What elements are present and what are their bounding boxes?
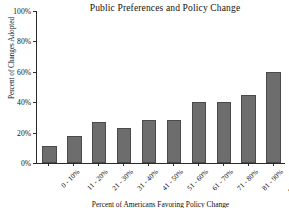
x-tick-mark <box>123 163 124 166</box>
y-axis-title: Percent of Changes Adopted <box>8 0 16 128</box>
x-tick-mark <box>198 163 199 166</box>
y-tick-mark <box>33 133 36 134</box>
x-tick-mark <box>48 163 49 166</box>
y-tick-label: 60% <box>17 67 31 76</box>
y-tick-mark <box>33 11 36 12</box>
y-tick-mark <box>33 163 36 164</box>
bar <box>67 136 81 163</box>
x-tick-mark <box>223 163 224 166</box>
x-tick-mark <box>148 163 149 166</box>
x-tick-label: 91 - 100% <box>286 168 289 195</box>
y-tick-label: 80% <box>17 37 31 46</box>
y-tick-mark <box>33 72 36 73</box>
bar <box>117 128 131 163</box>
x-tick-label: 81 - 90% <box>260 168 284 192</box>
y-tick-mark <box>33 41 36 42</box>
bar <box>241 95 255 163</box>
x-tick-label: 21 - 30% <box>111 168 135 192</box>
bar <box>142 120 156 163</box>
x-tick-mark <box>173 163 174 166</box>
bar-series <box>37 11 285 163</box>
bar <box>266 72 280 163</box>
y-tick-label: 0% <box>21 159 31 168</box>
x-tick-label: 61 - 70% <box>211 168 235 192</box>
x-axis-title: Percent of Americans Favoring Policy Cha… <box>36 200 285 208</box>
y-tick-label: 40% <box>17 98 31 107</box>
x-tick-label: 11 - 20% <box>86 168 110 192</box>
bar <box>192 102 206 163</box>
x-tick-mark <box>73 163 74 166</box>
y-tick-mark <box>33 102 36 103</box>
x-tick-label: 41 - 50% <box>161 168 185 192</box>
x-tick-label: 0 - 10% <box>60 168 82 190</box>
bar <box>42 146 56 163</box>
x-tick-mark <box>98 163 99 166</box>
bar <box>167 120 181 163</box>
x-tick-label: 71 - 80% <box>235 168 259 192</box>
chart-figure: Public Preferences and Policy Change Per… <box>0 0 289 208</box>
x-tick-mark <box>273 163 274 166</box>
y-tick-label: 100% <box>13 7 31 16</box>
plot-area: 0%20%40%60%80%100% 0 - 10%11 - 20%21 - 3… <box>36 11 285 163</box>
y-tick-label: 20% <box>17 128 31 137</box>
bar <box>217 102 231 163</box>
x-tick-label: 51 - 60% <box>186 168 210 192</box>
x-tick-label: 31 - 40% <box>136 168 160 192</box>
x-tick-mark <box>248 163 249 166</box>
bar <box>92 122 106 163</box>
